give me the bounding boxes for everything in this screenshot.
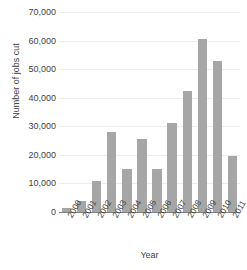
y-axis-tick-label: 20,000 bbox=[14, 151, 56, 160]
bar-series bbox=[59, 12, 240, 212]
bar-2010 bbox=[213, 61, 222, 212]
y-axis-tick-label: 40,000 bbox=[14, 94, 56, 103]
x-axis-tick-labels: 2000200120022003200420052006200720082009… bbox=[59, 212, 240, 252]
y-axis-tick-label: 30,000 bbox=[14, 122, 56, 131]
y-axis-tick-labels: 010,00020,00030,00040,00050,00060,00070,… bbox=[14, 0, 56, 270]
y-axis-tick-label: 50,000 bbox=[14, 65, 56, 74]
y-axis-tick-label: 60,000 bbox=[14, 37, 56, 46]
bar-2007 bbox=[167, 123, 176, 212]
bar-2009 bbox=[198, 39, 207, 212]
bar-2008 bbox=[183, 91, 192, 212]
y-axis-tick-label: 10,000 bbox=[14, 179, 56, 188]
x-axis-title: Year bbox=[59, 250, 240, 260]
y-axis-tick-label: 70,000 bbox=[14, 8, 56, 17]
bar-chart: Number of jobs cut 010,00020,00030,00040… bbox=[0, 0, 247, 270]
y-axis-tick-label: 0 bbox=[14, 208, 56, 217]
